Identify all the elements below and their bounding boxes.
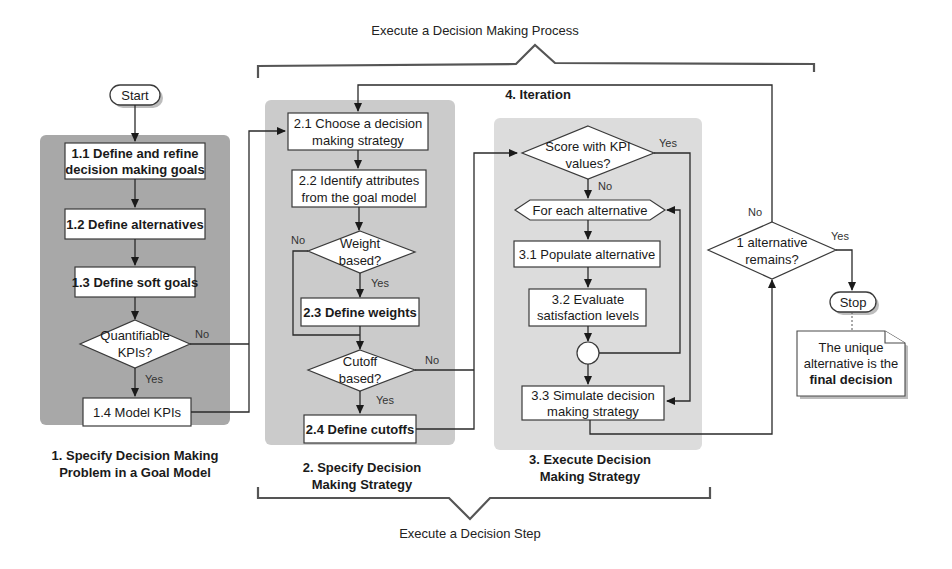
- iteration-label: 4. Iteration: [505, 87, 571, 102]
- decision-process-flowchart: Execute a Decision Making Process Start …: [0, 0, 952, 569]
- kpi-no-label: No: [195, 328, 209, 340]
- cutoff-no-label: No: [425, 354, 439, 366]
- step-1-2-label: 1.2 Define alternatives: [66, 217, 203, 232]
- phase2-title-line2: Making Strategy: [312, 477, 413, 492]
- weight-yes-label: Yes: [371, 277, 389, 289]
- decision-weight-line1: Weight: [340, 236, 381, 251]
- note-line3: final decision: [809, 372, 892, 387]
- step-3-3-line2: making strategy: [547, 404, 639, 419]
- note-line2: alternative is the: [804, 356, 899, 371]
- decision-weight-line2: based?: [339, 253, 382, 268]
- top-brace: [258, 45, 814, 78]
- final-no-label: No: [748, 206, 762, 218]
- decision-score-line1: Score with KPI: [545, 139, 630, 154]
- final-decision-line1: 1 alternative: [737, 235, 808, 250]
- step-1-1-line2: decision making goals: [65, 162, 204, 177]
- bottom-brace-label: Execute a Decision Step: [399, 526, 541, 541]
- step-3-2-line2: satisfaction levels: [537, 308, 639, 323]
- decision-cutoff-line2: based?: [339, 371, 382, 386]
- phase1-title-line2: Problem in a Goal Model: [59, 465, 211, 480]
- weight-no-label: No: [291, 234, 305, 246]
- final-yes-label: Yes: [831, 230, 849, 242]
- step-2-3-label: 2.3 Define weights: [303, 305, 416, 320]
- step-1-3-label: 1.3 Define soft goals: [72, 275, 198, 290]
- step-3-2-line1: 3.2 Evaluate: [552, 292, 624, 307]
- decision-kpi-line1: Quantifiable: [100, 328, 169, 343]
- step-2-4-label: 2.4 Define cutoffs: [306, 422, 414, 437]
- phase3-title-line1: 3. Execute Decision: [529, 452, 651, 467]
- step-3-1-label: 3.1 Populate alternative: [519, 247, 656, 262]
- step-2-2-line2: from the goal model: [302, 190, 417, 205]
- decision-score-line2: values?: [566, 156, 611, 171]
- note-line1: The unique: [818, 340, 883, 355]
- phase2-title-line1: 2. Specify Decision: [303, 460, 422, 475]
- step-3-3-line1: 3.3 Simulate decision: [531, 388, 655, 403]
- loop-merge-node: [577, 342, 599, 364]
- score-no-label: No: [598, 180, 612, 192]
- step-2-1-line1: 2.1 Choose a decision: [294, 116, 423, 131]
- score-yes-label: Yes: [659, 137, 677, 149]
- top-brace-label: Execute a Decision Making Process: [371, 23, 579, 38]
- kpi-yes-label: Yes: [145, 373, 163, 385]
- decision-cutoff-line1: Cutoff: [343, 354, 378, 369]
- decision-kpi-line2: KPIs?: [118, 345, 153, 360]
- step-2-1-line2: making strategy: [312, 133, 404, 148]
- step-1-1-line1: 1.1 Define and refine: [71, 146, 198, 161]
- cutoff-yes-label: Yes: [376, 394, 394, 406]
- loop-label: For each alternative: [533, 203, 648, 218]
- decision-one-alternative-remains: [708, 222, 836, 279]
- phase3-title-line2: Making Strategy: [540, 469, 641, 484]
- start-label: Start: [121, 88, 149, 103]
- step-2-2-line1: 2.2 Identify attributes: [299, 173, 420, 188]
- phase1-title-line1: 1. Specify Decision Making: [52, 448, 219, 463]
- step-1-4-label: 1.4 Model KPIs: [93, 405, 182, 420]
- final-decision-line2: remains?: [745, 252, 798, 267]
- stop-label: Stop: [840, 295, 867, 310]
